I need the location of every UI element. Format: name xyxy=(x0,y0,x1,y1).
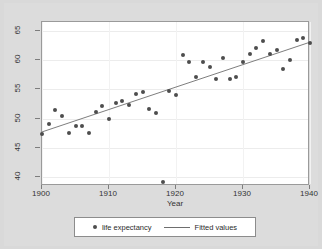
x-tick-label: 1910 xyxy=(88,189,128,198)
data-point xyxy=(208,65,212,69)
data-point xyxy=(214,77,218,81)
legend-marker-icon xyxy=(93,225,97,229)
data-point xyxy=(281,67,285,71)
data-point xyxy=(261,39,265,43)
legend-line-icon xyxy=(164,227,190,228)
chart-legend: life expectancy Fitted values xyxy=(74,217,256,237)
gridline-vertical xyxy=(310,22,311,184)
figure-background: 404550556065 19001910192019301940 Year l… xyxy=(0,0,322,249)
data-point xyxy=(301,36,305,40)
data-point xyxy=(181,53,185,57)
data-point xyxy=(167,89,171,93)
data-point xyxy=(74,124,78,128)
data-point xyxy=(228,77,232,81)
legend-item-fitted-values: Fitted values xyxy=(164,223,238,232)
x-tick-label: 1930 xyxy=(222,189,262,198)
data-point xyxy=(120,99,124,103)
data-point xyxy=(80,124,84,128)
plot-area xyxy=(41,21,309,185)
y-tick-label: 40 xyxy=(4,171,29,181)
y-tick-label: 60 xyxy=(4,54,29,64)
data-point xyxy=(308,41,312,45)
y-tick-mark xyxy=(35,59,40,60)
data-point xyxy=(161,180,165,184)
y-tick-label: 55 xyxy=(4,83,29,93)
data-point xyxy=(107,117,111,121)
x-tick-label: 1900 xyxy=(21,189,61,198)
legend-label-life-expectancy: life expectancy xyxy=(102,223,152,232)
y-tick-mark xyxy=(35,88,40,89)
data-point xyxy=(187,60,191,64)
y-tick-label: 50 xyxy=(4,113,29,123)
y-tick-mark xyxy=(35,147,40,148)
y-tick-label: 45 xyxy=(4,142,29,152)
data-point xyxy=(94,110,98,114)
x-axis-label: Year xyxy=(41,199,309,208)
data-point xyxy=(100,104,104,108)
data-point xyxy=(234,75,238,79)
data-point xyxy=(268,52,272,56)
data-point xyxy=(47,122,51,126)
y-tick-mark xyxy=(35,176,40,177)
data-point xyxy=(241,60,245,64)
data-point xyxy=(174,93,178,97)
data-point xyxy=(127,103,131,107)
data-point xyxy=(134,92,138,96)
y-tick-mark xyxy=(35,30,40,31)
data-point xyxy=(147,107,151,111)
data-point xyxy=(60,114,64,118)
data-point xyxy=(87,131,91,135)
data-point xyxy=(141,90,145,94)
data-point xyxy=(114,101,118,105)
data-point xyxy=(154,111,158,115)
scatter-points xyxy=(42,22,308,184)
data-point xyxy=(254,46,258,50)
data-point xyxy=(288,58,292,62)
data-point xyxy=(201,60,205,64)
legend-label-fitted-values: Fitted values xyxy=(195,223,238,232)
data-point xyxy=(275,48,279,52)
x-tick-label: 1920 xyxy=(155,189,195,198)
y-tick-mark xyxy=(35,118,40,119)
x-tick-label: 1940 xyxy=(289,189,322,198)
data-point xyxy=(221,56,225,60)
data-point xyxy=(248,52,252,56)
data-point xyxy=(194,75,198,79)
data-point xyxy=(67,131,71,135)
y-tick-label: 65 xyxy=(4,25,29,35)
legend-item-life-expectancy: life expectancy xyxy=(93,223,152,232)
data-point xyxy=(53,108,57,112)
data-point xyxy=(295,38,299,42)
figure-inner-background: 404550556065 19001910192019301940 Year l… xyxy=(4,3,318,246)
data-point xyxy=(40,132,44,136)
